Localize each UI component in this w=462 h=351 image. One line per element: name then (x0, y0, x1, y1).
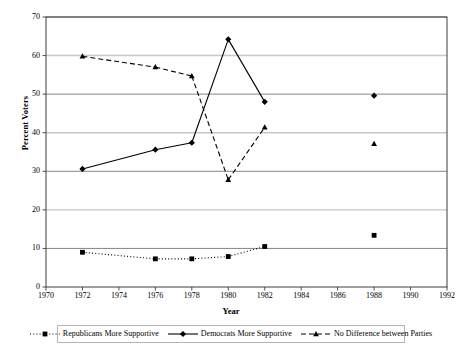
series-line-segment (82, 150, 155, 169)
series-line-segment (228, 39, 264, 101)
square-marker (226, 254, 231, 259)
x-tick-label: 1980 (208, 292, 248, 300)
triangle-marker (152, 64, 158, 69)
square-marker (153, 256, 158, 261)
y-tick-label: 10 (16, 244, 40, 252)
triangle-marker (262, 124, 268, 129)
triangle-marker (371, 141, 377, 146)
legend-swatch-square-marker (30, 329, 60, 339)
diamond-marker (371, 93, 377, 99)
diamond-marker (262, 99, 268, 105)
series-1 (79, 36, 377, 172)
y-tick-label: 70 (16, 13, 40, 21)
square-marker (372, 233, 377, 238)
legend-swatch-triangle-marker (301, 329, 331, 339)
series-line-segment (155, 143, 191, 150)
square-marker (262, 244, 267, 249)
series-line-segment (82, 252, 155, 259)
series-0 (80, 233, 376, 261)
x-tick-label: 1986 (318, 292, 358, 300)
plot-frame (46, 17, 447, 287)
square-marker (42, 332, 47, 337)
x-tick-label: 1982 (245, 292, 285, 300)
chart-container: Percent Voters Year 010203040506070 1970… (0, 0, 462, 351)
x-tick-label: 1992 (427, 292, 462, 300)
x-tick-label: 1984 (281, 292, 321, 300)
x-tick-label: 1974 (99, 292, 139, 300)
x-tick-label: 1988 (354, 292, 394, 300)
legend-item-2[interactable]: No Difference between Parties (301, 329, 432, 339)
series-line-segment (155, 67, 191, 76)
x-tick-label: 1990 (391, 292, 431, 300)
legend-item-0[interactable]: Republicans More Supportive (30, 329, 159, 339)
series-line-segment (82, 56, 155, 67)
diamond-marker (180, 331, 186, 337)
y-tick-label: 30 (16, 167, 40, 175)
x-axis-title: Year (0, 306, 462, 316)
legend-label: Republicans More Supportive (63, 330, 159, 338)
y-tick-label: 50 (16, 90, 40, 98)
series-line-segment (192, 257, 228, 259)
y-tick-label: 60 (16, 52, 40, 60)
square-marker (189, 256, 194, 261)
x-tick-label: 1976 (135, 292, 175, 300)
diamond-marker (189, 140, 195, 146)
x-tick-label: 1978 (172, 292, 212, 300)
legend-label: No Difference between Parties (334, 330, 432, 338)
series-line-segment (228, 127, 264, 179)
y-tick-label: 0 (16, 283, 40, 291)
y-axis-title: Percent Voters (20, 68, 30, 178)
chart-legend: Republicans More SupportiveDemocrats Mor… (57, 325, 405, 343)
legend-swatch-diamond-marker (168, 329, 198, 339)
legend-label: Democrats More Supportive (201, 330, 292, 338)
legend-item-1[interactable]: Democrats More Supportive (168, 329, 292, 339)
series-2 (80, 53, 377, 182)
y-tick-label: 20 (16, 206, 40, 214)
x-tick-label: 1970 (26, 292, 66, 300)
diamond-marker (152, 147, 158, 153)
y-tick-label: 40 (16, 129, 40, 137)
square-marker (80, 250, 85, 255)
diamond-marker (225, 36, 231, 42)
x-tick-label: 1972 (62, 292, 102, 300)
